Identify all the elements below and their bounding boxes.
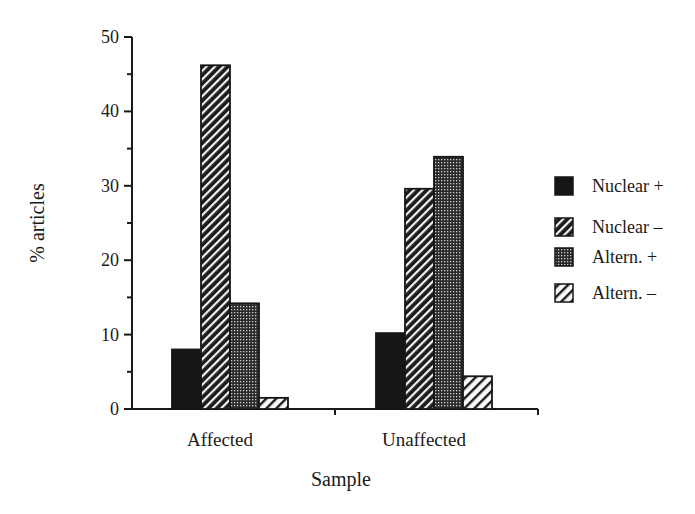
bars (172, 65, 492, 409)
bar-affected-1 (201, 65, 230, 409)
bar-unaffected-3 (463, 376, 492, 409)
legend-label-2: Altern. + (592, 247, 657, 267)
y-axis-label: % articles (26, 183, 48, 263)
y-tick-label: 50 (101, 27, 119, 47)
bar-unaffected-0 (376, 333, 405, 409)
y-tick-label: 10 (101, 325, 119, 345)
bar-unaffected-2 (434, 157, 463, 409)
legend-swatch-1 (555, 218, 573, 236)
y-tick-label: 40 (101, 101, 119, 121)
legend-label-1: Nuclear – (592, 217, 663, 237)
bar-affected-3 (259, 398, 288, 409)
legend-swatch-0 (555, 177, 573, 195)
category-label-affected: Affected (187, 429, 254, 450)
category-label-unaffected: Unaffected (382, 429, 467, 450)
bar-affected-0 (172, 349, 201, 409)
y-tick-label: 30 (101, 176, 119, 196)
bar-chart: 01020304050AffectedUnaffectedSample% art… (0, 0, 695, 514)
legend-label-0: Nuclear + (592, 176, 664, 196)
x-axis-label: Sample (311, 468, 371, 491)
legend-swatch-2 (555, 248, 573, 266)
bar-unaffected-1 (405, 189, 434, 409)
bar-affected-2 (230, 303, 259, 409)
y-tick-label: 20 (101, 250, 119, 270)
legend-label-3: Altern. – (592, 283, 657, 303)
y-tick-label: 0 (110, 399, 119, 419)
legend: Nuclear +Nuclear –Altern. +Altern. – (555, 176, 664, 303)
legend-swatch-3 (555, 284, 573, 302)
